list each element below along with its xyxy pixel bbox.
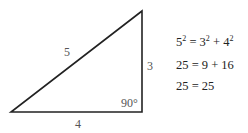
right-angle-label: 90° — [121, 97, 138, 109]
equation-pythagorean: 52 = 32 + 42 — [176, 36, 233, 49]
vertical-leg-label: 3 — [147, 60, 153, 72]
horizontal-leg-label: 4 — [75, 118, 81, 130]
equation-squares: 25 = 9 + 16 — [176, 59, 234, 72]
equation-result: 25 = 25 — [176, 80, 214, 93]
hypotenuse-label: 5 — [64, 46, 70, 58]
